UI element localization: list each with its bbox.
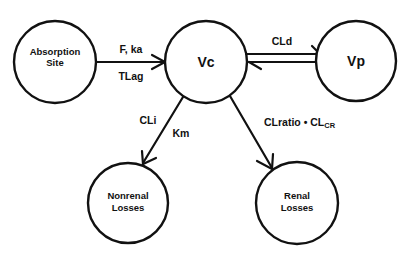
edge-vc-to-renal: CLratio • CLCR: [230, 96, 336, 169]
edge-vc-vp: CLd: [246, 35, 320, 69]
edge-label-f-ka: F, ka: [120, 43, 143, 55]
edge-absorption-to-vc: F, ka TLag: [96, 43, 165, 82]
renal-label-line2: Losses: [281, 202, 314, 213]
edge-label-km: Km: [173, 127, 190, 139]
node-vp: Vp: [316, 21, 396, 101]
node-absorption-site: Absorption Site: [14, 21, 96, 103]
absorption-label-line2: Site: [46, 57, 63, 68]
edge-vc-to-nonrenal: CLi Km: [140, 97, 190, 164]
edge-label-cld: CLd: [272, 35, 292, 47]
vp-label: Vp: [347, 53, 365, 69]
edge-label-clratio: CLratio • CLCR: [264, 116, 336, 130]
node-nonrenal-losses: Nonrenal Losses: [88, 163, 168, 243]
node-vc: Vc: [165, 21, 247, 103]
edge-label-tlag: TLag: [118, 70, 143, 82]
edge-label-cli: CLi: [140, 114, 157, 126]
node-renal-losses: Renal Losses: [256, 162, 338, 244]
nonrenal-label-line2: Losses: [112, 202, 145, 213]
vc-label: Vc: [197, 54, 214, 70]
nonrenal-label-line1: Nonrenal: [107, 190, 148, 201]
absorption-label-line1: Absorption: [30, 46, 81, 57]
renal-label-line1: Renal: [284, 190, 310, 201]
pk-model-diagram: Absorption Site F, ka TLag Vc CLd Vp CLi…: [0, 0, 414, 256]
